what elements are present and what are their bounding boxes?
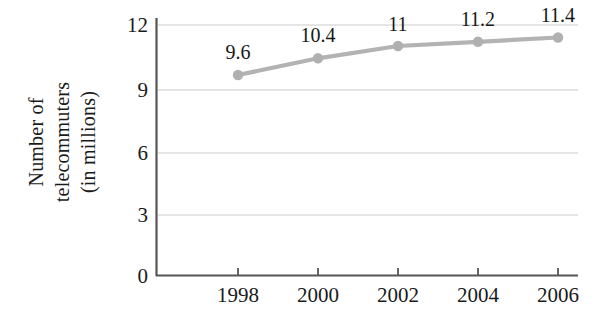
plot-area (0, 0, 610, 328)
line-chart: Number of telecommuters (in millions) 12… (0, 0, 610, 328)
x-tick-label-2006: 2006 (518, 285, 598, 306)
data-label-2002: 11 (363, 14, 433, 34)
data-point-2004 (473, 37, 483, 47)
data-label-1998: 9.6 (203, 42, 273, 62)
data-point-2006 (553, 32, 563, 42)
x-tick-label-1998: 1998 (198, 285, 278, 306)
data-point-1998 (233, 70, 243, 80)
x-tick-label-2000: 2000 (278, 285, 358, 306)
data-label-2006: 11.4 (523, 5, 593, 25)
data-label-2004: 11.2 (443, 9, 513, 29)
data-point-2000 (313, 53, 323, 63)
x-tick-label-2002: 2002 (358, 285, 438, 306)
data-point-2002 (393, 41, 403, 51)
x-tick-label-2004: 2004 (438, 285, 518, 306)
data-label-2000: 10.4 (283, 25, 353, 45)
